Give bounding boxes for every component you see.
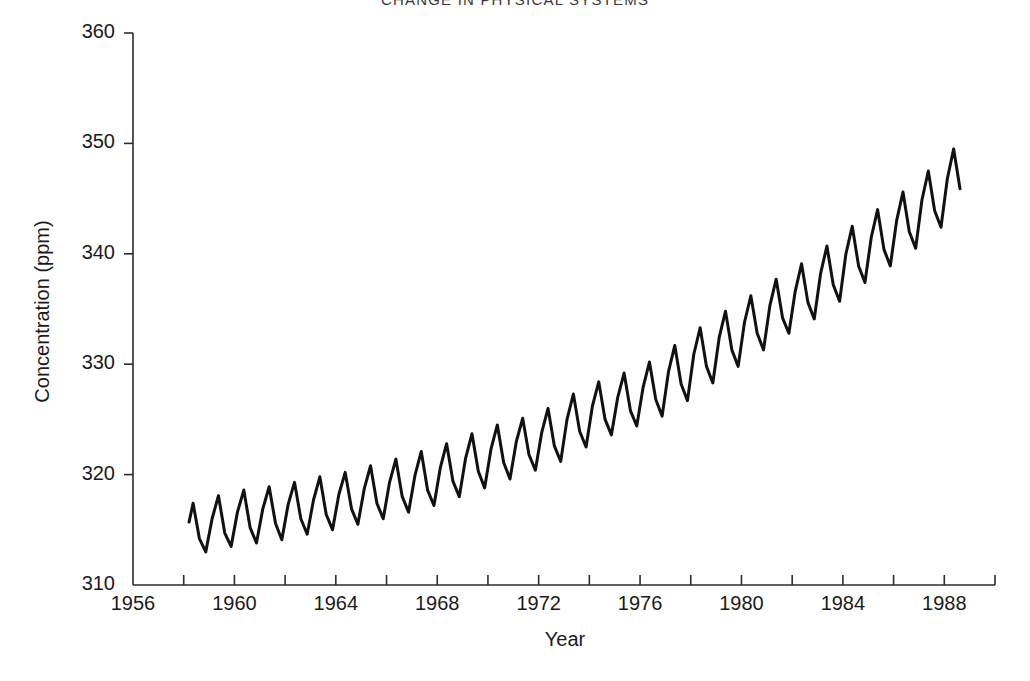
y-tick-label: 350 bbox=[57, 130, 115, 153]
x-tick-label: 1988 bbox=[904, 592, 984, 615]
y-tick-label: 340 bbox=[57, 241, 115, 264]
plot-area bbox=[0, 0, 1030, 681]
y-tick-label: 330 bbox=[57, 351, 115, 374]
axis-lines bbox=[133, 33, 995, 585]
x-tick-label: 1968 bbox=[397, 592, 477, 615]
x-tick-label: 1956 bbox=[93, 592, 173, 615]
x-tick-label: 1960 bbox=[194, 592, 274, 615]
x-tick-label: 1972 bbox=[499, 592, 579, 615]
x-tick-marks bbox=[184, 575, 995, 585]
y-tick-marks bbox=[124, 33, 133, 475]
y-tick-label: 320 bbox=[57, 462, 115, 485]
y-tick-label: 360 bbox=[57, 20, 115, 43]
x-tick-label: 1964 bbox=[296, 592, 376, 615]
data-series-group bbox=[189, 149, 960, 552]
chart-figure: CHANGE IN PHYSICAL SYSTEMS Concentration… bbox=[0, 0, 1030, 681]
x-tick-label: 1980 bbox=[701, 592, 781, 615]
x-tick-label: 1984 bbox=[803, 592, 883, 615]
x-tick-label: 1976 bbox=[600, 592, 680, 615]
